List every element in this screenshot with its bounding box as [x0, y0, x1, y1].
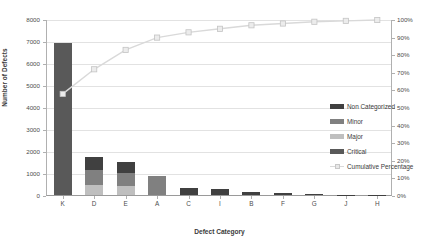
- legend-color-swatch: [330, 134, 344, 139]
- x-axis-tick-label: C: [186, 200, 191, 207]
- cumulative-line-marker[interactable]: [312, 19, 317, 24]
- cumulative-line-marker[interactable]: [123, 47, 128, 52]
- legend-color-swatch: [330, 149, 344, 154]
- legend-item[interactable]: Major: [330, 129, 438, 144]
- cumulative-line-marker[interactable]: [186, 30, 191, 35]
- y-axis-tick-label: 1000: [0, 171, 40, 177]
- x-axis-tick-label: F: [281, 200, 285, 207]
- cumulative-line-marker[interactable]: [280, 21, 285, 26]
- x-axis-tick-label: K: [61, 200, 65, 207]
- x-axis-tick-mark: [94, 196, 95, 199]
- secondary-y-axis-tick-label: 100%: [397, 17, 431, 23]
- legend-item-label: Non Categorized: [347, 103, 395, 110]
- y-axis-tick-label: 5000: [0, 83, 40, 89]
- cumulative-line-marker[interactable]: [154, 35, 159, 40]
- y-axis-tick-mark: [43, 196, 46, 197]
- x-axis-tick-mark: [157, 196, 158, 199]
- x-axis-tick-mark: [314, 196, 315, 199]
- chart-legend: Non CategorizedMinorMajorCriticalCumulat…: [330, 99, 438, 174]
- secondary-y-axis-tick-label: 90%: [397, 35, 431, 41]
- plot-area: KDEACIBFGJH Non CategorizedMinorMajorCri…: [46, 20, 392, 196]
- cumulative-line-marker[interactable]: [217, 26, 222, 31]
- x-axis-tick-label: G: [312, 200, 317, 207]
- x-axis-tick-mark: [63, 196, 64, 199]
- cumulative-line-marker[interactable]: [249, 23, 254, 28]
- x-axis-tick-mark: [251, 196, 252, 199]
- legend-item[interactable]: Non Categorized: [330, 99, 438, 114]
- x-axis-tick-label: A: [155, 200, 159, 207]
- x-axis-tick-label: H: [375, 200, 380, 207]
- y-axis-tick-label: 4000: [0, 105, 40, 111]
- y-axis-tick-label: 8000: [0, 17, 40, 23]
- x-axis-tick-mark: [220, 196, 221, 199]
- secondary-y-axis-tick-label: 70%: [397, 70, 431, 76]
- x-axis-tick-mark: [283, 196, 284, 199]
- x-axis-tick-mark: [126, 196, 127, 199]
- legend-item-label: Major: [347, 133, 363, 140]
- x-axis-tick-mark: [189, 196, 190, 199]
- y-axis-tick-label: 0: [0, 193, 40, 199]
- cumulative-line-marker[interactable]: [60, 91, 65, 96]
- x-axis-tick-mark: [377, 196, 378, 199]
- y-axis-tick-label: 6000: [0, 61, 40, 67]
- secondary-y-axis-tick-label: 0%: [397, 193, 431, 199]
- secondary-y-axis-tick-label: 60%: [397, 87, 431, 93]
- y-axis-tick-label: 7000: [0, 39, 40, 45]
- x-axis-title: Defect Category: [0, 228, 439, 235]
- secondary-y-axis-tick-mark: [392, 196, 395, 197]
- x-axis-tick-label: E: [123, 200, 127, 207]
- x-axis-tick-mark: [346, 196, 347, 199]
- legend-item[interactable]: Minor: [330, 114, 438, 129]
- legend-color-swatch: [330, 104, 344, 109]
- cumulative-line-marker[interactable]: [375, 17, 380, 22]
- x-axis-tick-label: D: [92, 200, 97, 207]
- cumulative-line-marker[interactable]: [343, 18, 348, 23]
- x-axis-tick-label: I: [219, 200, 221, 207]
- y-axis-tick-label: 3000: [0, 127, 40, 133]
- legend-line-marker-icon: [330, 164, 344, 169]
- cumulative-line-marker[interactable]: [92, 67, 97, 72]
- secondary-y-axis-tick-label: 80%: [397, 52, 431, 58]
- pareto-chart: Number of Defects 0100020003000400050006…: [0, 0, 439, 247]
- legend-item-label: Cumulative Percentage: [347, 163, 413, 170]
- legend-color-swatch: [330, 119, 344, 124]
- legend-item[interactable]: Cumulative Percentage: [330, 159, 438, 174]
- y-axis-tick-label: 2000: [0, 149, 40, 155]
- legend-item-label: Minor: [347, 118, 363, 125]
- x-axis-tick-label: J: [344, 200, 347, 207]
- secondary-y-axis-tick-label: 10%: [397, 175, 431, 181]
- legend-item-label: Critical: [347, 148, 367, 155]
- x-axis-tick-label: B: [249, 200, 253, 207]
- legend-item[interactable]: Critical: [330, 144, 438, 159]
